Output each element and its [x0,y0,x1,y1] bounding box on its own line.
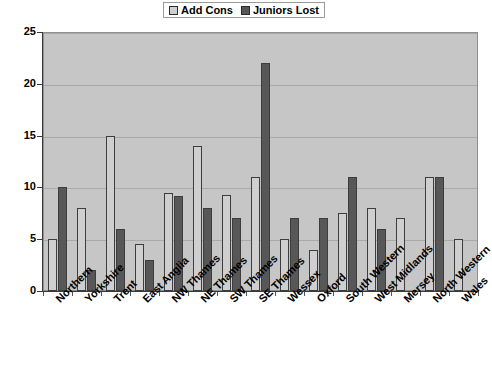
y-axis-tick [37,136,42,137]
x-axis-tick [43,292,44,296]
chart-legend: Add Cons Juniors Lost [163,2,325,18]
y-axis-tick [37,84,42,85]
y-axis-tick [37,32,42,33]
y-axis-label: 0 [2,285,36,296]
y-axis-label: 10 [2,181,36,192]
bar-juniors-lost-north-western [435,177,444,291]
y-axis-label-wrap: 25 [0,26,36,37]
legend-item-juniors-lost: Juniors Lost [241,5,319,16]
y-axis-label-wrap: 5 [0,233,36,244]
y-axis-line [42,32,43,292]
y-axis-label: 15 [2,130,36,141]
bar-juniors-lost-south-western [348,177,357,291]
bar-juniors-lost-northern [58,187,67,291]
legend-item-add-cons: Add Cons [169,5,233,16]
bar-juniors-lost-oxford [319,218,328,291]
bar-juniors-lost-ne-thames [203,208,212,291]
legend-swatch-add-cons [169,6,178,15]
y-axis-tick [37,187,42,188]
y-axis-label-wrap: 10 [0,181,36,192]
legend-label-add-cons: Add Cons [181,5,233,16]
y-axis-label-wrap: 15 [0,130,36,141]
y-axis-label-wrap: 20 [0,78,36,89]
y-axis-label-wrap: 0 [0,285,36,296]
bar-add-cons-northern [48,239,57,291]
y-axis-tick [37,239,42,240]
y-axis-label: 5 [2,233,36,244]
legend-label-juniors-lost: Juniors Lost [253,5,319,16]
y-axis-label: 20 [2,78,36,89]
bars-layer [43,32,478,291]
y-axis-label: 25 [2,26,36,37]
y-axis-tick [37,291,42,292]
legend-swatch-juniors-lost [241,6,250,15]
